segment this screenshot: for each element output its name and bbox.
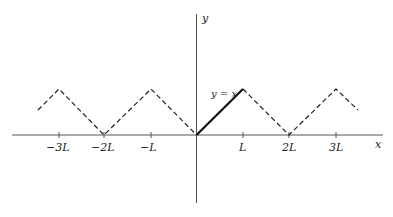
- tick-label: −2L: [91, 141, 115, 154]
- tick-label: −L: [140, 141, 157, 154]
- triangle-wave-diagram: y x y = x −3L −2L −L L 2L 3L: [0, 0, 393, 217]
- curve-label: y = x: [210, 88, 237, 99]
- tick-label: −3L: [46, 141, 70, 154]
- tick-label: 2L: [281, 141, 296, 154]
- tick-label: L: [238, 141, 246, 154]
- x-axis-label: x: [375, 138, 382, 151]
- periodic-extension-right: [243, 89, 358, 135]
- tick-label: 3L: [329, 141, 343, 154]
- y-axis-label: y: [201, 12, 209, 25]
- periodic-extension-left: [38, 89, 197, 135]
